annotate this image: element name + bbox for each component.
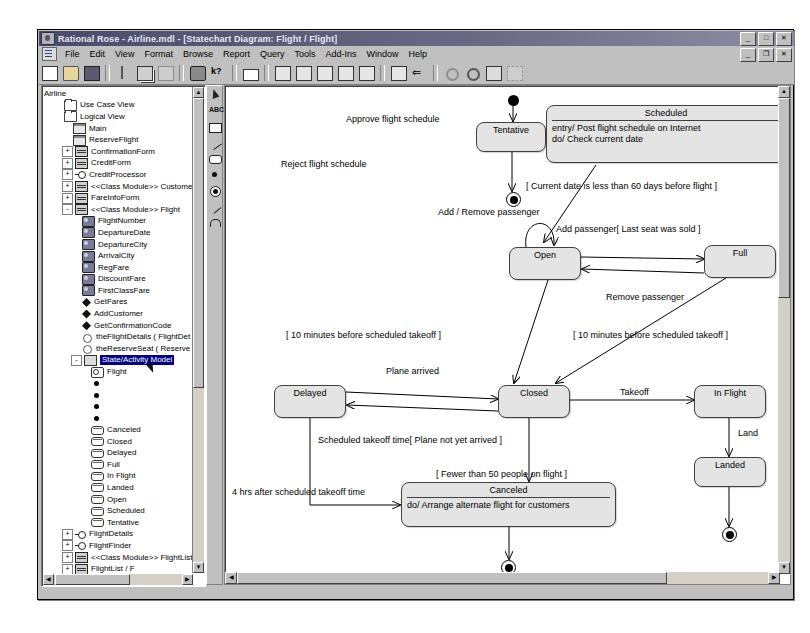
tree-node[interactable]: +ConfirmationForm xyxy=(44,146,188,158)
tree-node[interactable]: Flight xyxy=(44,366,188,378)
menu-query[interactable]: Query xyxy=(255,48,290,60)
tree-node[interactable] xyxy=(44,413,188,425)
tree-node[interactable]: +<<Class Module>> FlightList xyxy=(44,552,188,564)
tree-node[interactable]: DiscountFare xyxy=(44,274,188,286)
menu-tools[interactable]: Tools xyxy=(289,48,320,60)
browser-vertical-scrollbar[interactable]: ▲ ▼ xyxy=(192,87,204,573)
menu-file[interactable]: File xyxy=(60,48,85,60)
diagram-scroll-left-button[interactable]: ◀ xyxy=(225,572,237,584)
tree-node[interactable]: Delayed xyxy=(44,447,188,459)
print-icon[interactable] xyxy=(188,64,207,82)
menu-browse[interactable]: Browse xyxy=(178,48,218,60)
tree-node[interactable] xyxy=(44,378,188,390)
expand-icon[interactable]: + xyxy=(62,181,73,192)
tree-node[interactable]: -<<Class Module>> Flight xyxy=(44,204,188,216)
tree-node[interactable]: Canceled xyxy=(44,424,188,436)
tree-node[interactable]: -State/Activity Model xyxy=(44,355,188,367)
maximize-button[interactable]: □ xyxy=(758,32,774,46)
tree-node[interactable]: Open xyxy=(44,494,188,506)
tree-node[interactable]: +CreditProcessor xyxy=(44,169,188,181)
document-icon[interactable] xyxy=(42,47,57,61)
browse-class-diagram-icon[interactable] xyxy=(294,64,313,82)
tree-node[interactable]: +CreditForm xyxy=(44,158,188,170)
transition-to-self-tool[interactable] xyxy=(207,215,222,230)
text-tool[interactable]: ABC xyxy=(207,103,222,118)
tree-node[interactable]: DepartureCity xyxy=(44,239,188,251)
browse-class-icon[interactable] xyxy=(241,64,260,82)
tree-node[interactable]: RegFare xyxy=(44,262,188,274)
open-icon[interactable] xyxy=(61,64,80,82)
paste-icon[interactable] xyxy=(156,64,175,82)
state-canceled[interactable]: Canceleddo/ Arrange alternate flight for… xyxy=(401,482,616,527)
menu-window[interactable]: Window xyxy=(362,48,404,60)
tree-node[interactable]: GetConfirmationCode xyxy=(44,320,188,332)
undo-fit-icon[interactable] xyxy=(505,64,524,82)
tree-node[interactable]: Closed xyxy=(44,436,188,448)
new-icon[interactable] xyxy=(40,64,59,82)
tree-node[interactable]: In Flight xyxy=(44,471,188,483)
anchor-note-tool[interactable] xyxy=(207,135,222,150)
tree-node[interactable]: Use Case View xyxy=(44,100,188,112)
browser-scroll-right-button[interactable]: ▶ xyxy=(182,574,193,585)
mdi-close-button[interactable]: ✕ xyxy=(776,48,792,62)
menu-help[interactable]: Help xyxy=(404,48,433,60)
tree-node[interactable]: Full xyxy=(44,459,188,471)
collapse-icon[interactable]: - xyxy=(62,204,73,215)
tree-node[interactable]: +FareInfoForm xyxy=(44,192,188,204)
browser-hscroll-thumb[interactable] xyxy=(55,574,130,585)
tree-node[interactable]: Tentative xyxy=(44,517,188,529)
tree-node[interactable]: DepartureDate xyxy=(44,227,188,239)
tree-node[interactable] xyxy=(44,401,188,413)
tree-node[interactable]: +<<Class Module>> Customer xyxy=(44,181,188,193)
expand-icon[interactable]: + xyxy=(62,193,73,204)
tree-node[interactable]: Scheduled xyxy=(44,505,188,517)
expand-icon[interactable]: + xyxy=(62,552,73,563)
tree-node[interactable]: theFlightDetails ( FlightDet xyxy=(44,331,188,343)
menu-report[interactable]: Report xyxy=(218,48,255,60)
final-state-icon[interactable] xyxy=(506,192,521,207)
expand-icon[interactable]: + xyxy=(62,146,73,157)
state-delayed[interactable]: Delayed xyxy=(274,385,346,418)
tree-node[interactable]: GetFares xyxy=(44,297,188,309)
diagram-vscroll-thumb[interactable] xyxy=(778,98,790,298)
state-tool[interactable] xyxy=(207,151,222,166)
browser-scroll-up-button[interactable]: ▲ xyxy=(193,87,204,98)
final-state-icon[interactable] xyxy=(722,527,737,542)
tree-node[interactable] xyxy=(44,389,188,401)
expand-icon[interactable]: + xyxy=(62,529,73,540)
expand-icon[interactable]: + xyxy=(62,540,73,551)
state-inflight[interactable]: In Flight xyxy=(694,385,766,418)
browse-component-diagram-icon[interactable] xyxy=(357,64,376,82)
tree-node[interactable]: theReserveSeat ( Reserve xyxy=(44,343,188,355)
diagram-scroll-up-button[interactable]: ▲ xyxy=(778,86,790,98)
save-icon[interactable] xyxy=(82,64,101,82)
tree-node[interactable]: AddCustomer xyxy=(44,308,188,320)
tree-node[interactable]: FlightNumber xyxy=(44,216,188,228)
diagram-canvas[interactable]: TentativeScheduledentry/ Post flight sch… xyxy=(226,87,779,573)
tree-node[interactable]: Main xyxy=(44,123,188,135)
browse-previous-diagram-icon[interactable]: ⇐ xyxy=(410,64,429,82)
collapse-icon[interactable]: - xyxy=(71,355,82,366)
tree-node[interactable]: Logical View xyxy=(44,111,188,123)
tree-node[interactable]: Landed xyxy=(44,482,188,494)
diagram-horizontal-scrollbar[interactable]: ◀ ▶ xyxy=(225,572,780,584)
state-transition-tool[interactable] xyxy=(207,199,222,214)
expand-icon[interactable]: + xyxy=(62,158,73,169)
diagram-pane[interactable]: TentativeScheduledentry/ Post flight sch… xyxy=(224,85,791,585)
browse-interaction-diagram-icon[interactable] xyxy=(336,64,355,82)
tree-node[interactable]: ArrivalCity xyxy=(44,250,188,262)
diagram-hscroll-thumb[interactable] xyxy=(237,572,667,584)
diagram-vertical-scrollbar[interactable]: ▲ ▼ xyxy=(778,86,790,574)
browser-horizontal-scrollbar[interactable]: ◀ ▶ xyxy=(43,574,193,585)
note-tool[interactable] xyxy=(207,119,222,134)
state-scheduled[interactable]: Scheduledentry/ Post flight schedule on … xyxy=(546,105,779,163)
menu-view[interactable]: View xyxy=(110,48,139,60)
fit-in-window-icon[interactable] xyxy=(484,64,503,82)
state-full[interactable]: Full xyxy=(704,245,776,278)
mdi-restore-button[interactable]: ❐ xyxy=(758,48,774,62)
zoom-in-icon[interactable] xyxy=(442,64,461,82)
expand-icon[interactable]: + xyxy=(62,564,73,575)
browser-scroll-thumb[interactable] xyxy=(193,98,204,388)
tree-node[interactable]: +FlightDetails xyxy=(44,529,188,541)
browse-state-machine-diagram-icon[interactable] xyxy=(315,64,334,82)
